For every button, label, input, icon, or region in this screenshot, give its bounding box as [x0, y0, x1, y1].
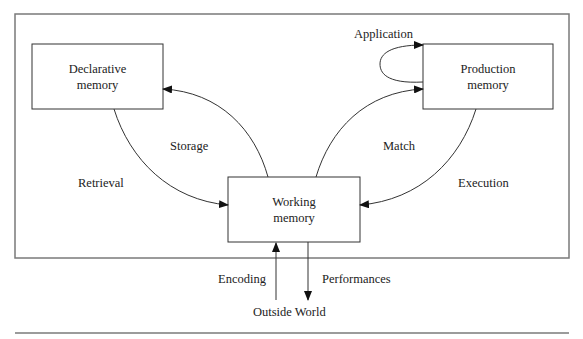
storage-arrow — [163, 89, 268, 177]
encoding-label: Encoding — [218, 272, 266, 287]
outside-world-label: Outside World — [253, 305, 326, 320]
production-line1: Production — [423, 61, 553, 77]
production-memory-label: Production memory — [423, 61, 553, 93]
working-line1: Working — [228, 194, 360, 210]
retrieval-label: Retrieval — [78, 176, 124, 191]
execution-label: Execution — [458, 176, 509, 191]
retrieval-arrow — [114, 109, 228, 205]
performances-label: Performances — [322, 272, 391, 287]
match-label: Match — [383, 139, 415, 154]
match-arrow — [316, 89, 423, 177]
diagram-canvas — [0, 0, 583, 339]
working-memory-label: Working memory — [228, 194, 360, 226]
application-label: Application — [354, 27, 413, 42]
storage-label: Storage — [170, 139, 208, 154]
application-loop-arrow — [380, 45, 423, 82]
declarative-line2: memory — [32, 77, 163, 93]
production-line2: memory — [423, 77, 553, 93]
working-line2: memory — [228, 210, 360, 226]
declarative-line1: Declarative — [32, 61, 163, 77]
declarative-memory-label: Declarative memory — [32, 61, 163, 93]
